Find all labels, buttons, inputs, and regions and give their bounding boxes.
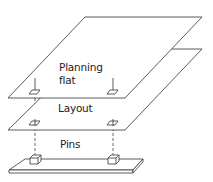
- pins-label: Pins: [60, 138, 80, 150]
- pins-base-plate: [9, 159, 143, 173]
- layer-stack-diagram: [0, 0, 213, 182]
- layout-label: Layout: [58, 102, 93, 114]
- planning-flat-label-line2: flat: [59, 74, 75, 86]
- pin-right: [108, 155, 119, 164]
- planning-flat-label-line1: Planning: [59, 61, 103, 73]
- pin-left: [30, 155, 41, 164]
